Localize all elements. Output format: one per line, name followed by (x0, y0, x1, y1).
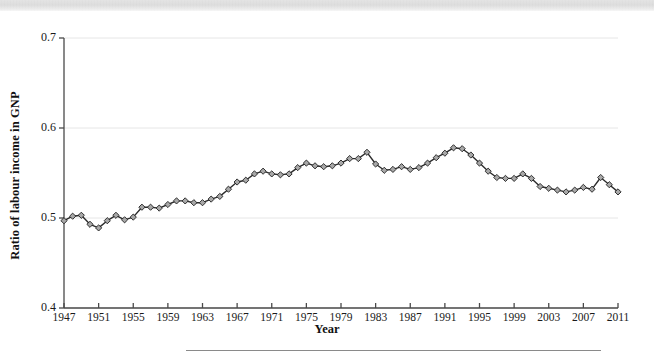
data-point-marker (580, 184, 586, 190)
chart-figure: Ratio of labour income in GNP Year 0.70.… (0, 0, 654, 360)
data-point-marker (502, 175, 508, 181)
data-point-marker (147, 204, 153, 210)
data-point-marker (191, 200, 197, 206)
data-point-marker (269, 171, 275, 177)
y-tick-label: 0.6 (26, 120, 56, 135)
line-chart-plot (0, 0, 654, 360)
data-point-marker (312, 163, 318, 169)
data-point-marker (338, 160, 344, 166)
data-point-marker (347, 156, 353, 162)
data-point-marker (398, 164, 404, 170)
y-tick-label: 0.5 (26, 210, 56, 225)
data-point-marker (208, 196, 214, 202)
data-point-marker (546, 185, 552, 191)
data-point-marker (390, 166, 396, 172)
data-point-marker (520, 171, 526, 177)
data-point-marker (182, 198, 188, 204)
data-point-marker (321, 164, 327, 170)
data-point-marker (260, 168, 266, 174)
data-point-marker (572, 187, 578, 193)
x-axis-label: Year (0, 322, 654, 337)
data-point-marker (165, 201, 171, 207)
data-point-marker (277, 172, 283, 178)
y-axis-label: Ratio of labour income in GNP (8, 91, 23, 259)
data-point-marker (407, 166, 413, 172)
data-point-marker (554, 187, 560, 193)
data-point-marker (199, 200, 205, 206)
y-axis-label-container: Ratio of labour income in GNP (2, 40, 28, 310)
data-point-marker (173, 198, 179, 204)
data-point-marker (511, 175, 517, 181)
data-point-marker (329, 163, 335, 169)
data-point-marker (303, 160, 309, 166)
data-point-marker (416, 165, 422, 171)
data-point-marker (156, 205, 162, 211)
footer-rule (186, 350, 601, 351)
data-point-marker (563, 189, 569, 195)
x-tick-label: 2011 (598, 311, 638, 323)
y-tick-label: 0.7 (26, 30, 56, 45)
